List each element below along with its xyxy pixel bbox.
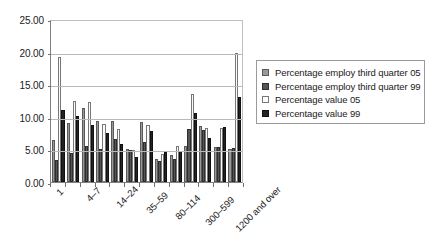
bar-group xyxy=(95,21,110,182)
bar-group xyxy=(80,21,95,182)
chart-legend: Percentage employ third quarter 05Percen… xyxy=(256,60,425,124)
bar-group xyxy=(110,21,125,182)
bar-group xyxy=(198,21,213,182)
legend-item[interactable]: Percentage value 99 xyxy=(262,107,424,121)
x-tick-label: 300–599 xyxy=(203,194,236,227)
x-tick-mark xyxy=(139,183,140,187)
x-tick-label: 4–7 xyxy=(84,185,103,204)
x-tick-mark xyxy=(109,183,110,187)
bar xyxy=(120,144,123,182)
bar-group xyxy=(169,21,184,182)
x-tick-label: 1 xyxy=(54,186,65,197)
bar xyxy=(150,131,153,183)
y-tick-label: 25.00 xyxy=(19,15,44,26)
legend-item-label: Percentage value 99 xyxy=(275,108,360,119)
y-tick-mark xyxy=(48,21,51,22)
plot-area xyxy=(50,20,243,183)
bar xyxy=(223,127,226,182)
bar xyxy=(61,110,64,182)
bar xyxy=(91,125,94,182)
y-tick-label: 5.00 xyxy=(25,145,44,156)
x-tick-mark xyxy=(124,183,125,187)
y-tick-label: 0.00 xyxy=(25,178,44,189)
legend-item[interactable]: Percentage employ third quarter 99 xyxy=(262,80,424,94)
y-axis-tick-labels: 0.005.0010.0015.0020.0025.00 xyxy=(0,20,44,183)
bar-group xyxy=(124,21,139,182)
x-tick-mark xyxy=(50,183,51,187)
x-tick-label: 35–59 xyxy=(144,190,170,216)
bar-group xyxy=(139,21,154,182)
x-tick-mark xyxy=(243,183,244,187)
x-tick-mark xyxy=(169,183,170,187)
x-tick-mark xyxy=(228,183,229,187)
bar xyxy=(76,116,79,183)
x-axis-tick-labels: 14–714–2435–5980–114300–5991200 and over xyxy=(0,188,260,247)
legend-swatch-series-3 xyxy=(262,110,269,117)
x-tick-mark xyxy=(80,183,81,187)
y-tick-mark xyxy=(48,151,51,152)
y-tick-label: 15.00 xyxy=(19,80,44,91)
bar-chart-figure: 0.005.0010.0015.0020.0025.00 14–714–2435… xyxy=(0,0,431,247)
y-tick-label: 10.00 xyxy=(19,112,44,123)
bar-group xyxy=(66,21,81,182)
x-tick-label: 80–114 xyxy=(173,192,202,221)
bar-group xyxy=(51,21,66,182)
gridline xyxy=(51,54,242,55)
y-tick-mark xyxy=(48,54,51,55)
bar-group xyxy=(213,21,228,182)
legend-item[interactable]: Percentage value 05 xyxy=(262,93,424,107)
x-tick-label: 1200 and over xyxy=(233,184,283,234)
y-tick-label: 20.00 xyxy=(19,47,44,58)
legend-swatch-series-1 xyxy=(262,83,269,90)
legend-item[interactable]: Percentage employ third quarter 05 xyxy=(262,66,424,80)
gridline xyxy=(51,151,242,152)
legend-swatch-series-0 xyxy=(262,69,269,76)
bar-group xyxy=(227,21,242,182)
x-tick-mark xyxy=(198,183,199,187)
bar xyxy=(164,152,167,182)
legend-swatch-series-2 xyxy=(262,96,269,103)
bar xyxy=(194,113,197,182)
bar-group xyxy=(183,21,198,182)
x-tick-mark xyxy=(184,183,185,187)
bars-layer xyxy=(51,21,242,182)
bar xyxy=(135,157,138,182)
x-tick-mark xyxy=(154,183,155,187)
bar xyxy=(179,151,182,182)
legend-item-label: Percentage employ third quarter 05 xyxy=(275,67,421,78)
y-tick-mark xyxy=(48,119,51,120)
x-tick-label: 14–24 xyxy=(114,184,140,210)
x-tick-mark xyxy=(213,183,214,187)
gridline xyxy=(51,119,242,120)
bar xyxy=(208,138,211,182)
bar-group xyxy=(154,21,169,182)
bar xyxy=(238,97,241,182)
plot-wrapper: 0.005.0010.0015.0020.0025.00 14–714–2435… xyxy=(0,0,260,247)
bar xyxy=(106,133,109,182)
y-tick-mark xyxy=(48,86,51,87)
legend-item-label: Percentage employ third quarter 99 xyxy=(275,81,421,92)
x-tick-mark xyxy=(65,183,66,187)
legend-item-label: Percentage value 05 xyxy=(275,94,360,105)
gridline xyxy=(51,86,242,87)
